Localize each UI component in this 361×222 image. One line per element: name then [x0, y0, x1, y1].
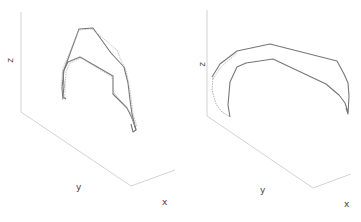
- x-axis-label: x: [344, 200, 349, 209]
- axes-frame: [21, 12, 175, 186]
- inner-curve: [228, 59, 348, 117]
- outer-curve: [212, 44, 349, 114]
- x-axis-label: x: [162, 198, 167, 207]
- plot-canvas-left: [0, 0, 180, 222]
- y-axis-line: [207, 116, 313, 188]
- y-axis-line: [21, 112, 131, 186]
- outer-curve: [62, 28, 136, 132]
- reference-curve: [212, 76, 230, 117]
- inner-curve: [63, 57, 136, 130]
- reference-curve: [61, 29, 137, 127]
- y-axis-label: y: [76, 183, 81, 192]
- curves: [212, 44, 349, 117]
- plot-panel-left: z y x: [0, 0, 180, 222]
- plot-canvas-right: [180, 0, 361, 222]
- z-axis-label: z: [6, 58, 15, 63]
- curves: [61, 28, 137, 132]
- x-axis-line: [313, 174, 351, 188]
- z-axis-label: z: [198, 62, 207, 67]
- plot-panel-right: z y x: [180, 0, 361, 222]
- x-axis-line: [131, 170, 175, 186]
- y-axis-label: y: [260, 186, 265, 195]
